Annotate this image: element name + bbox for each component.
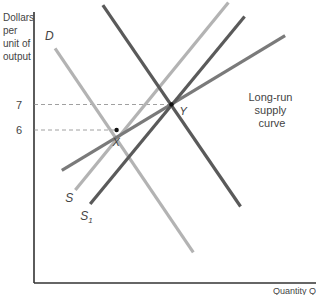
equilibrium-point-y [169, 102, 173, 106]
long-run-label-line: supply [255, 104, 287, 116]
x-axis-label: Quantity Q [273, 286, 316, 295]
y-tick-label: 6 [16, 124, 22, 136]
equilibrium-point-x [114, 128, 118, 132]
series-label-s: S [65, 191, 73, 205]
y-axis-label-line: Dollars [3, 12, 34, 23]
y-axis-label-line: unit of [3, 38, 30, 49]
y-axis-label-line: per [3, 25, 18, 36]
series-line-d [55, 48, 193, 252]
series-label-d: D [45, 29, 54, 43]
y-axis-label-line: output [3, 51, 31, 62]
equilibrium-label-y: Y [179, 105, 187, 117]
chart-svg: Dollars per unit of output Quantity Q 67… [0, 0, 320, 295]
y-tick-label: 7 [16, 99, 22, 111]
long-run-label-line: Long-run [248, 91, 292, 103]
equilibrium-label-x: X [112, 136, 121, 148]
long-run-label-line: curve [259, 117, 286, 129]
series-label-s1: S1 [80, 209, 92, 225]
y-axis-label: Dollars per unit of output [3, 12, 37, 62]
long-run-supply-label: Long-run supply curve [248, 91, 295, 129]
series-line-s [75, 3, 228, 190]
